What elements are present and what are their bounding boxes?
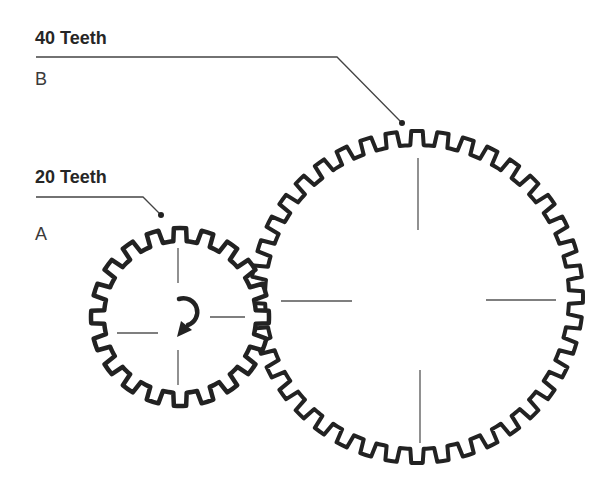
leader-dot-a	[158, 212, 164, 218]
gear-b-outline	[251, 131, 583, 463]
gear-a-teeth-label: 20 Teeth	[35, 168, 107, 186]
gear-b-teeth-label: 40 Teeth	[35, 29, 107, 47]
gear-diagram	[0, 0, 611, 490]
leader-line-b	[36, 57, 402, 123]
leader-line-a	[36, 197, 161, 215]
gear-a-20-teeth	[91, 228, 269, 406]
gear-b-name-label: B	[35, 70, 47, 88]
gear-a-name-label: A	[35, 225, 47, 243]
gear-b-40-teeth	[251, 131, 583, 463]
leader-dot-b	[399, 120, 405, 126]
